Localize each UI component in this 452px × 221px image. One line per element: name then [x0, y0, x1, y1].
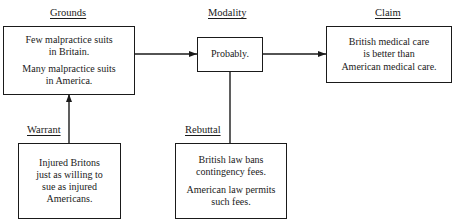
text-line: Americans.: [36, 193, 102, 205]
text-line: in America.: [22, 75, 115, 87]
text-line: contingency fees.: [196, 166, 266, 178]
text-line: just as willing to: [36, 169, 102, 181]
rebuttal-label: Rebuttal: [185, 125, 221, 136]
text-line: in Britain.: [25, 46, 112, 58]
text-line: British medical care: [341, 36, 436, 48]
text-line: Few malpractice suits: [25, 34, 112, 46]
warrant-label: Warrant: [27, 125, 61, 136]
claim-label: Claim: [375, 8, 401, 19]
rebuttal-statement-2: American law permits such fees.: [187, 184, 276, 208]
text-line: American medical care.: [341, 61, 436, 73]
claim-box: British medical care is better than Amer…: [326, 26, 452, 83]
text-line: Probably.: [211, 48, 249, 60]
rebuttal-box: British law bans contingency fees. Ameri…: [175, 143, 287, 219]
grounds-statement-1: Few malpractice suits in Britain.: [25, 34, 112, 58]
text-line: such fees.: [187, 196, 276, 208]
text-line: Injured Britons: [36, 157, 102, 169]
text-line: sue as injured: [36, 181, 102, 193]
text-line: is better than: [341, 48, 436, 60]
rebuttal-statement-1: British law bans contingency fees.: [196, 154, 266, 178]
modality-statement: Probably.: [211, 48, 249, 60]
text-line: American law permits: [187, 184, 276, 196]
modality-label: Modality: [208, 8, 247, 19]
warrant-box: Injured Britons just as willing to sue a…: [18, 143, 121, 219]
text-line: British law bans: [196, 154, 266, 166]
grounds-box: Few malpractice suits in Britain. Many m…: [3, 26, 135, 95]
grounds-statement-2: Many malpractice suits in America.: [22, 63, 115, 87]
warrant-statement: Injured Britons just as willing to sue a…: [36, 157, 102, 206]
claim-statement: British medical care is better than Amer…: [341, 36, 436, 73]
modality-box: Probably.: [197, 37, 263, 72]
grounds-label: Grounds: [50, 8, 86, 19]
text-line: Many malpractice suits: [22, 63, 115, 75]
